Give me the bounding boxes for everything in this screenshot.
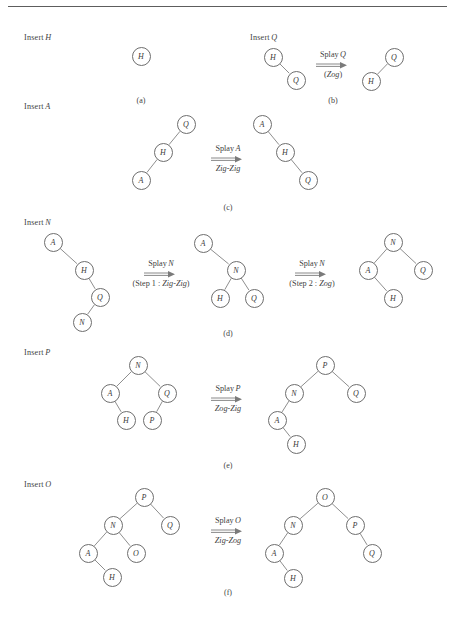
tree-node-h: H — [117, 411, 136, 430]
double-arrow-icon — [211, 395, 245, 403]
tree-edge — [374, 249, 386, 263]
tree-node-n: N — [104, 516, 123, 535]
tree-node-q: Q — [161, 516, 180, 535]
tree-edge — [150, 504, 163, 518]
tree-edge — [119, 532, 130, 545]
tree-node-n: N — [73, 313, 92, 332]
insert-label-e: InsertP — [24, 348, 51, 357]
tree-node-p: P — [346, 516, 365, 535]
tree-edge — [60, 248, 77, 263]
double-arrow-icon — [211, 527, 245, 535]
tree-node-a: A — [132, 171, 151, 190]
operation-key: Q — [339, 50, 346, 59]
tree-node-q: Q — [299, 171, 318, 190]
operation-key: A — [234, 144, 241, 153]
tree-node-p: P — [143, 411, 162, 430]
insert-key: A — [44, 102, 51, 111]
insert-label-d: InsertN — [24, 218, 51, 227]
tree-node-q: Q — [245, 289, 264, 308]
tree-node-o: O — [127, 544, 146, 563]
tree-edge — [301, 371, 318, 386]
operation-key: N — [318, 259, 325, 268]
insert-key: Q — [270, 33, 278, 42]
tree-node-q: Q — [158, 384, 177, 403]
operation-name: SplayN — [252, 259, 372, 269]
operation-label-c: SplayAZig-Zig — [168, 144, 288, 174]
tree-node-a: A — [101, 384, 120, 403]
panel-caption-b: (b) — [313, 96, 353, 105]
tree-node-h: H — [154, 143, 173, 162]
tree-edge — [332, 371, 349, 386]
tree-node-a: A — [44, 233, 63, 252]
tree-edge — [283, 427, 290, 436]
tree-node-q: Q — [385, 48, 404, 67]
tree-edge — [94, 532, 106, 546]
tree-node-n: N — [227, 261, 246, 280]
tree-node-h: H — [103, 568, 122, 587]
tree-edge — [169, 131, 180, 144]
tree-node-n: N — [129, 356, 148, 375]
tree-edge — [89, 278, 95, 289]
tree-node-h: H — [287, 435, 306, 454]
insert-label-a: InsertH — [24, 33, 51, 42]
insert-key: O — [44, 480, 52, 489]
panel-caption-e: (e) — [208, 461, 248, 470]
operation-label-d: SplayN(Step 1 : Zig-Zig) — [101, 259, 221, 289]
operation-detail: (Step 2 : Zog) — [252, 279, 372, 289]
operation-key: N — [167, 259, 174, 268]
operation-key: P — [234, 384, 241, 393]
operation-detail: (Step 1 : Zig-Zig) — [101, 279, 221, 289]
tree-edge — [332, 503, 348, 518]
tree-node-a: A — [268, 411, 287, 430]
double-arrow-icon — [144, 270, 178, 278]
tree-edge — [241, 278, 249, 290]
insert-label-f: InsertO — [24, 480, 51, 489]
operation-label-f: SplayOZig-Zog — [168, 516, 288, 546]
tree-node-q: Q — [347, 384, 366, 403]
operation-name: SplayN — [101, 259, 221, 269]
operation-name: SplayQ — [273, 50, 393, 60]
tree-edge — [300, 503, 318, 518]
tree-edge — [147, 159, 157, 172]
tree-edge — [360, 533, 367, 545]
tree-node-q: Q — [91, 288, 110, 307]
panel-caption-f: (f) — [208, 588, 248, 597]
tree-node-q: Q — [363, 544, 382, 563]
header-rule — [8, 6, 447, 7]
tree-node-h: H — [132, 47, 151, 66]
double-arrow-icon — [211, 155, 245, 163]
operation-detail: Zig-Zig — [168, 164, 288, 174]
operation-key: O — [234, 516, 241, 525]
tree-node-h: H — [75, 261, 94, 280]
tree-edge — [280, 561, 288, 571]
operation-detail: Zog-Zig — [168, 404, 288, 414]
tree-node-a: A — [265, 544, 284, 563]
tree-node-h: H — [284, 569, 303, 588]
tree-node-a: A — [194, 234, 213, 253]
insert-label-c: InsertA — [24, 102, 51, 111]
splay-tree-figure: InsertH(a)HInsertQ(b)SplayQ(Zog)HQQHInse… — [0, 0, 455, 620]
tree-node-q: Q — [414, 261, 433, 280]
tree-node-q: Q — [177, 115, 196, 134]
tree-edge — [95, 560, 106, 571]
double-arrow-icon — [295, 270, 329, 278]
panel-caption-d: (d) — [208, 329, 248, 338]
tree-edge — [145, 372, 160, 387]
tree-edge — [120, 503, 137, 518]
tree-edge — [225, 278, 232, 290]
tree-node-h: H — [362, 72, 381, 91]
operation-name: SplayO — [168, 516, 288, 526]
tree-node-p: P — [316, 356, 335, 375]
tree-edge — [88, 305, 95, 315]
panel-caption-a: (a) — [121, 96, 161, 105]
tree-node-n: N — [285, 384, 304, 403]
insert-label-b: InsertQ — [250, 33, 277, 42]
tree-edge — [374, 277, 386, 291]
panel-caption-c: (c) — [208, 203, 248, 212]
tree-node-q: Q — [287, 71, 306, 90]
tree-node-h: H — [276, 143, 295, 162]
tree-node-h: H — [211, 289, 230, 308]
tree-node-n: N — [384, 233, 403, 252]
insert-key: H — [44, 33, 52, 42]
tree-node-h: H — [264, 48, 283, 67]
